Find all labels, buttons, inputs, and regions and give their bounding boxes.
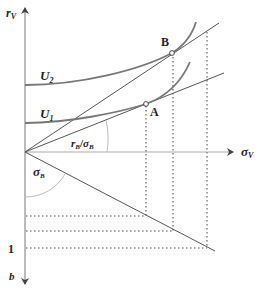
label-b: b: [9, 270, 15, 282]
point-a: [144, 102, 149, 107]
diagram-canvas: rV σV b 1 U2 U1 B A rB/σB σB: [0, 0, 273, 293]
ray-a: [25, 73, 224, 152]
label-angle-upper: rB/σB: [71, 137, 94, 151]
ray-b: [25, 23, 219, 152]
label-point-a: A: [150, 105, 159, 119]
angle-arc-upper: [106, 120, 108, 152]
label-sigma-v: σV: [241, 144, 254, 160]
point-b: [170, 51, 175, 56]
angle-arc-lower: [25, 174, 65, 197]
ray-lower: [25, 152, 215, 251]
label-u1: U1: [40, 106, 53, 123]
label-angle-lower: σB: [33, 164, 45, 180]
label-point-b: B: [161, 35, 169, 49]
label-rv: rV: [6, 6, 17, 21]
label-u2: U2: [40, 68, 53, 85]
label-one: 1: [8, 242, 14, 256]
